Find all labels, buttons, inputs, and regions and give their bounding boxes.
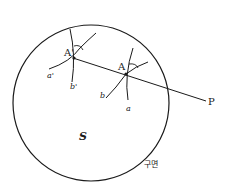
label-surface: 구면 (144, 159, 158, 169)
sphere-diagram: A' A P a' b' b a S 구면 (0, 0, 232, 187)
ray-line (73, 58, 206, 101)
label-p-point: P (208, 96, 215, 107)
label-curve-a-prime: a' (47, 71, 54, 80)
point-a (124, 72, 127, 75)
sphere-circle (13, 25, 169, 181)
label-sphere-s: S (79, 130, 87, 143)
label-curve-b-prime: b' (70, 82, 77, 91)
label-a-point: A (117, 61, 126, 72)
label-curve-b: b (100, 91, 105, 100)
curve-a (127, 48, 133, 100)
label-curve-a: a (126, 104, 131, 113)
label-a-prime-point: A' (63, 47, 74, 58)
